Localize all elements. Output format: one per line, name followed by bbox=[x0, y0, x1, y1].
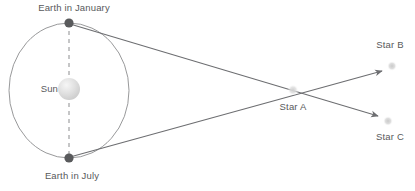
earth-january-label: Earth in January bbox=[38, 2, 110, 13]
star-a-label: Star A bbox=[280, 101, 307, 112]
earth-july-label: Earth in July bbox=[45, 170, 99, 181]
star-b-dot bbox=[387, 61, 397, 71]
star-a-dot bbox=[288, 85, 299, 96]
earth-january-dot bbox=[64, 18, 73, 27]
sight-line-january-to-star-c bbox=[70, 24, 378, 116]
star-b-label: Star B bbox=[376, 39, 403, 50]
star-c-label: Star C bbox=[376, 131, 404, 142]
earth-july-dot bbox=[64, 153, 73, 162]
star-c-dot bbox=[383, 116, 393, 126]
diagram-canvas: Earth in January Earth in July Sun Star … bbox=[0, 0, 415, 191]
sun-label: Sun bbox=[41, 83, 58, 94]
parallax-diagram: Earth in January Earth in July Sun Star … bbox=[0, 0, 415, 191]
sun-sphere bbox=[58, 78, 80, 100]
sight-line-july-to-star-b bbox=[70, 71, 382, 157]
